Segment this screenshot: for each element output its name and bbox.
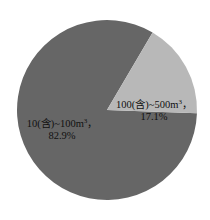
pie-slice-1-label-comma: ， bbox=[182, 99, 192, 110]
pie-slice-0-label-comma: ， bbox=[87, 118, 97, 129]
pie-slice-1-percent-text: 17.1% bbox=[104, 111, 204, 123]
pie-slice-0-label: 10(含)~100m3， 82.9% bbox=[12, 118, 112, 142]
pie-slice-0-category-text: 10(含)~100m bbox=[27, 118, 84, 129]
pie-slice-0-percent-text: 82.9% bbox=[12, 130, 112, 142]
pie-slice-1-label-line1: 100(含)~500m3， bbox=[104, 99, 204, 111]
pie-slice-0-label-line1: 10(含)~100m3， bbox=[12, 118, 112, 130]
pie-slice-1-label: 100(含)~500m3， 17.1% bbox=[104, 99, 204, 123]
pie-chart: 10(含)~100m3， 82.9% 100(含)~500m3， 17.1% bbox=[0, 0, 210, 220]
pie-slice-1-category-text: 100(含)~500m bbox=[116, 99, 178, 110]
